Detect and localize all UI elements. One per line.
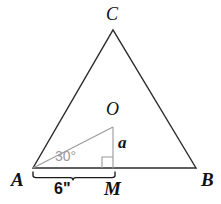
apex-c-label: C xyxy=(106,5,118,23)
vertex-a-label: A xyxy=(11,170,24,189)
midpoint-m-label: M xyxy=(104,179,121,198)
brace-am-icon xyxy=(33,172,115,180)
right-angle-marker-icon xyxy=(102,157,113,168)
vertex-b-label: B xyxy=(201,170,214,189)
apothem-a-label: a xyxy=(118,134,127,151)
geometry-figure: C O a A B M 30° 6" xyxy=(0,0,221,204)
center-o-label: O xyxy=(106,100,119,118)
base-measure-label: 6" xyxy=(54,181,70,197)
angle-30-label: 30° xyxy=(55,149,76,163)
